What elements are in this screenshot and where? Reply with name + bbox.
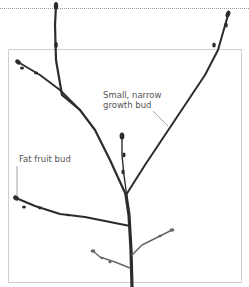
- growth-bud-label-line1: Small, narrow: [103, 90, 161, 100]
- growth-bud-label: Small, narrow growth bud: [103, 90, 161, 110]
- fruit-bud-label: Fat fruit bud: [19, 154, 71, 164]
- growth-bud-leader-line: [153, 111, 168, 126]
- branch-illustration: [0, 0, 249, 287]
- growth-bud-label-line2: growth bud: [103, 100, 161, 110]
